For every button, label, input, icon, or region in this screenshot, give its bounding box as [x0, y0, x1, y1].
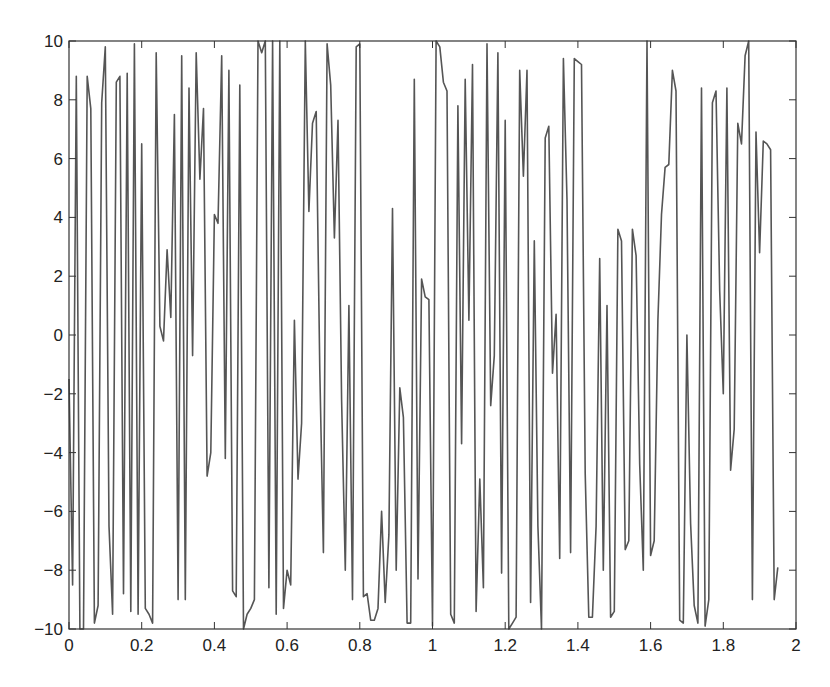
x-tick-label: 1.4 [566, 636, 590, 655]
y-tick-label: −8 [44, 561, 63, 580]
y-tick-label: 10 [44, 32, 63, 51]
y-tick-label: 2 [54, 267, 63, 286]
y-tick-label: 8 [54, 91, 63, 110]
y-tick-label: −10 [34, 620, 63, 639]
x-tick-label: 1.2 [493, 636, 517, 655]
x-tick-label: 1.8 [711, 636, 735, 655]
x-tick-label: 2 [791, 636, 800, 655]
x-tick-label: 0.6 [275, 636, 299, 655]
y-tick-label: 4 [54, 208, 63, 227]
x-tick-label: 1 [428, 636, 437, 655]
y-tick-label: 0 [54, 326, 63, 345]
x-tick-label: 0.2 [130, 636, 154, 655]
y-tick-label: −4 [44, 444, 63, 463]
y-tick-label: 6 [54, 150, 63, 169]
x-tick-label: 0 [64, 636, 73, 655]
y-tick-label: −6 [44, 502, 63, 521]
y-tick-label: −2 [44, 385, 63, 404]
x-tick-label: 0.4 [203, 636, 227, 655]
x-tick-label: 1.6 [639, 636, 663, 655]
x-tick-label: 0.8 [348, 636, 372, 655]
line-chart: 00.20.40.60.811.21.41.61.82 −10−8−6−4−20… [0, 0, 830, 687]
